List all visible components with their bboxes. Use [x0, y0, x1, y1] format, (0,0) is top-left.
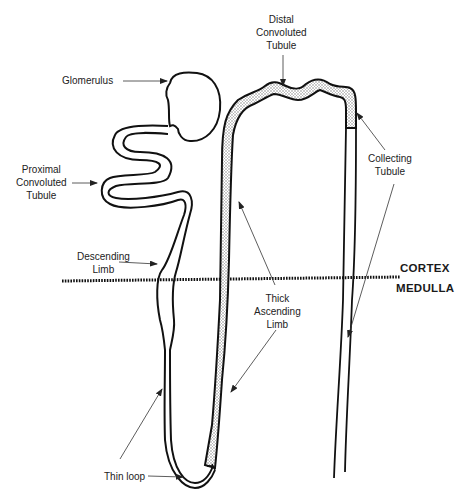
cortex-medulla-boundary	[62, 277, 400, 281]
label-collecting-tubule: Collecting Tubule	[368, 152, 412, 178]
label-line: Limb	[77, 263, 130, 276]
collecting-arrow-top	[357, 113, 385, 150]
label-line: Tubule	[368, 165, 412, 178]
label-thick-ascending-limb: Thick Ascending Limb	[254, 292, 301, 331]
thin-loop-arrow-up	[120, 389, 162, 459]
label-line: Convoluted	[256, 26, 307, 39]
zone-label-cortex: CORTEX	[400, 262, 450, 274]
thick-ascending-and-distal-tubule	[205, 80, 356, 469]
proximal-convoluted-tubule	[102, 125, 215, 488]
label-thin-loop: Thin loop	[104, 470, 145, 483]
label-line: Tubule	[16, 189, 67, 202]
label-line: Thick	[254, 292, 301, 305]
label-line: Limb	[254, 318, 301, 331]
label-proximal-convoluted-tubule: Proximal Convoluted Tubule	[16, 163, 67, 202]
label-line: Glomerulus	[62, 74, 113, 87]
label-line: Distal	[256, 13, 307, 26]
label-line: Ascending	[254, 305, 301, 318]
label-glomerulus: Glomerulus	[62, 74, 113, 87]
label-descending-limb: Descending Limb	[77, 250, 130, 276]
collecting-tubule	[334, 128, 356, 478]
label-line: Convoluted	[16, 176, 67, 189]
label-line: Thin loop	[104, 470, 145, 483]
label-line: Descending	[77, 250, 130, 263]
zone-label-medulla: MEDULLA	[396, 282, 454, 294]
label-line: Tubule	[256, 39, 307, 52]
glomerulus-shape	[166, 73, 220, 141]
label-line: Proximal	[16, 163, 67, 176]
label-line: Collecting	[368, 152, 412, 165]
thick-ascending-arrow-bottom	[231, 330, 276, 392]
thick-ascending-arrow-top	[239, 202, 275, 285]
label-distal-convoluted-tubule: Distal Convoluted Tubule	[256, 13, 307, 52]
